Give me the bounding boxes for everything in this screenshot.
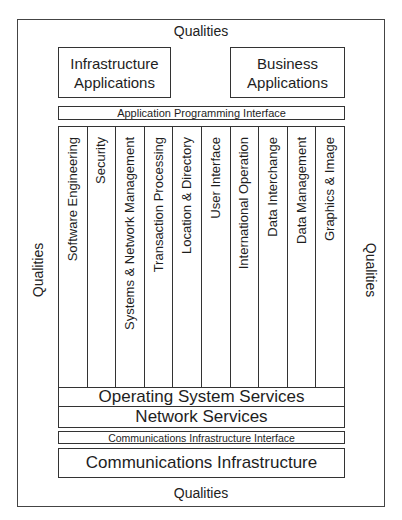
communications-infrastructure-box: Communications Infrastructure: [58, 448, 345, 478]
infrastructure-applications-line1: Infrastructure: [70, 54, 158, 73]
service-column-label: Transaction Processing: [149, 137, 169, 357]
business-applications-box: Business Applications: [230, 47, 345, 98]
network-services-label: Network Services: [135, 407, 267, 427]
communications-infrastructure-interface-bar: Communications Infrastructure Interface: [58, 431, 345, 444]
api-bar: Application Programming Interface: [58, 106, 345, 120]
service-column-label: International Operation: [234, 137, 254, 357]
service-column-transaction-processing: Transaction Processing: [145, 127, 174, 387]
qualities-label-right: Qualities: [361, 210, 381, 330]
communications-infrastructure-label: Communications Infrastructure: [86, 453, 317, 473]
service-column-data-interchange: Data Interchange: [259, 127, 288, 387]
service-column-label: Location & Directory: [177, 137, 197, 357]
service-column-systems-network-management: Systems & Network Management: [116, 127, 145, 387]
service-column-label: Systems & Network Management: [120, 137, 140, 357]
business-applications-line1: Business: [247, 54, 328, 73]
qualities-label-top: Qualities: [0, 23, 402, 39]
qualities-label-bottom: Qualities: [0, 485, 402, 501]
service-column-label: Data Management: [292, 137, 312, 357]
network-services-box: Network Services: [58, 406, 345, 428]
service-column-user-interface: User Interface: [202, 127, 231, 387]
service-column-data-management: Data Management: [288, 127, 317, 387]
qualities-label-left: Qualities: [28, 210, 48, 330]
service-column-label: Graphics & Image: [320, 137, 340, 357]
service-column-location-directory: Location & Directory: [173, 127, 202, 387]
communications-infrastructure-interface-label: Communications Infrastructure Interface: [108, 432, 295, 444]
service-column-graphics-image: Graphics & Image: [316, 127, 344, 387]
service-column-software-engineering: Software Engineering: [59, 127, 88, 387]
service-column-security: Security: [88, 127, 117, 387]
service-column-international-operation: International Operation: [231, 127, 260, 387]
infrastructure-applications-box: Infrastructure Applications: [58, 47, 171, 98]
service-column-label: Data Interchange: [263, 137, 283, 357]
operating-system-services-label: Operating System Services: [99, 387, 305, 407]
infrastructure-applications-line2: Applications: [70, 73, 158, 92]
service-column-label: User Interface: [206, 137, 226, 357]
service-columns: Software Engineering Security Systems & …: [58, 126, 345, 388]
service-column-label: Software Engineering: [63, 137, 83, 357]
service-column-label: Security: [91, 137, 111, 357]
business-applications-line2: Applications: [247, 73, 328, 92]
operating-system-services-box: Operating System Services: [58, 387, 345, 407]
api-label: Application Programming Interface: [117, 107, 286, 119]
